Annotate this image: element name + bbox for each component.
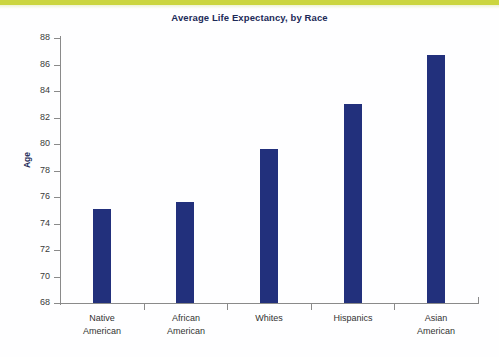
y-tick: 68: [54, 303, 60, 304]
x-tick-mark: [144, 304, 145, 310]
y-tick-label: 80: [40, 138, 50, 149]
x-tick-mark: [227, 304, 228, 310]
y-tick: 82: [54, 118, 60, 119]
y-tick-label: 70: [40, 271, 50, 282]
y-tick-label: 82: [40, 112, 50, 123]
y-axis-title: Age: [22, 145, 32, 175]
y-tick-mark: [54, 65, 60, 66]
bar: [344, 104, 362, 303]
y-tick: 86: [54, 65, 60, 66]
y-tick-label: 84: [40, 85, 50, 96]
chart-page: Average Life Expectancy, by Race Age 687…: [0, 0, 499, 357]
y-tick-mark: [54, 224, 60, 225]
y-tick-mark: [54, 197, 60, 198]
y-tick-mark: [54, 38, 60, 39]
category-label: African American: [144, 312, 228, 337]
bar: [427, 55, 445, 303]
y-tick-label: 74: [40, 218, 50, 229]
y-tick-label: 88: [40, 32, 50, 43]
top-accent-fade: [0, 5, 499, 9]
chart-title: Average Life Expectancy, by Race: [0, 12, 499, 23]
y-tick-mark: [54, 250, 60, 251]
y-tick-mark: [54, 118, 60, 119]
y-tick-label: 78: [40, 165, 50, 176]
bar: [93, 209, 111, 303]
y-tick: 76: [54, 197, 60, 198]
y-tick-label: 86: [40, 59, 50, 70]
y-axis-line: [60, 36, 61, 305]
y-tick-mark: [54, 303, 60, 304]
x-tick-mark: [394, 304, 395, 310]
bar: [176, 202, 194, 303]
y-tick-label: 72: [40, 244, 50, 255]
y-tick-mark: [54, 144, 60, 145]
y-tick: 84: [54, 91, 60, 92]
y-tick-label: 76: [40, 191, 50, 202]
y-tick-mark: [54, 171, 60, 172]
x-axis-line: [60, 303, 479, 304]
y-tick: 72: [54, 250, 60, 251]
y-tick: 70: [54, 277, 60, 278]
category-label: Whites: [227, 312, 311, 325]
x-tick-mark: [311, 304, 312, 310]
y-tick: 88: [54, 38, 60, 39]
bar: [260, 149, 278, 303]
category-label: Asian American: [394, 312, 478, 337]
y-tick-mark: [54, 277, 60, 278]
category-label: Hispanics: [311, 312, 395, 325]
category-label: Native American: [60, 312, 144, 337]
y-tick-mark: [54, 91, 60, 92]
y-tick-label: 68: [40, 297, 50, 308]
y-tick: 74: [54, 224, 60, 225]
y-tick: 80: [54, 144, 60, 145]
y-tick: 78: [54, 171, 60, 172]
x-axis-end-cap: [478, 297, 479, 304]
